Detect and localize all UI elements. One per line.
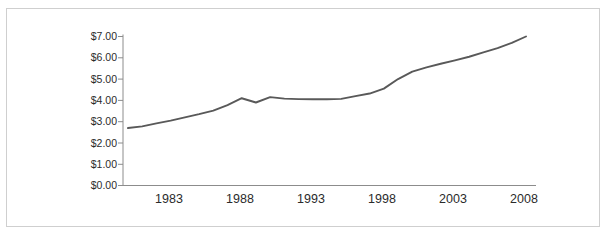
chart-plot-area: $7.00 $6.00 $5.00 $4.00 $3.00 $2.00 $1.0… [7, 9, 601, 228]
x-axis-label-1993: 1993 [281, 192, 341, 206]
x-axis-labels: 1983 1988 1993 1998 2003 2008 [7, 9, 601, 228]
chart-frame: $7.00 $6.00 $5.00 $4.00 $3.00 $2.00 $1.0… [6, 8, 600, 227]
x-axis-label-1988: 1988 [210, 192, 270, 206]
x-axis-label-1998: 1998 [352, 192, 412, 206]
screenshot-page: $7.00 $6.00 $5.00 $4.00 $3.00 $2.00 $1.0… [0, 0, 609, 235]
x-axis-label-2008: 2008 [494, 192, 554, 206]
x-axis-label-1983: 1983 [139, 192, 199, 206]
x-axis-label-2003: 2003 [423, 192, 483, 206]
